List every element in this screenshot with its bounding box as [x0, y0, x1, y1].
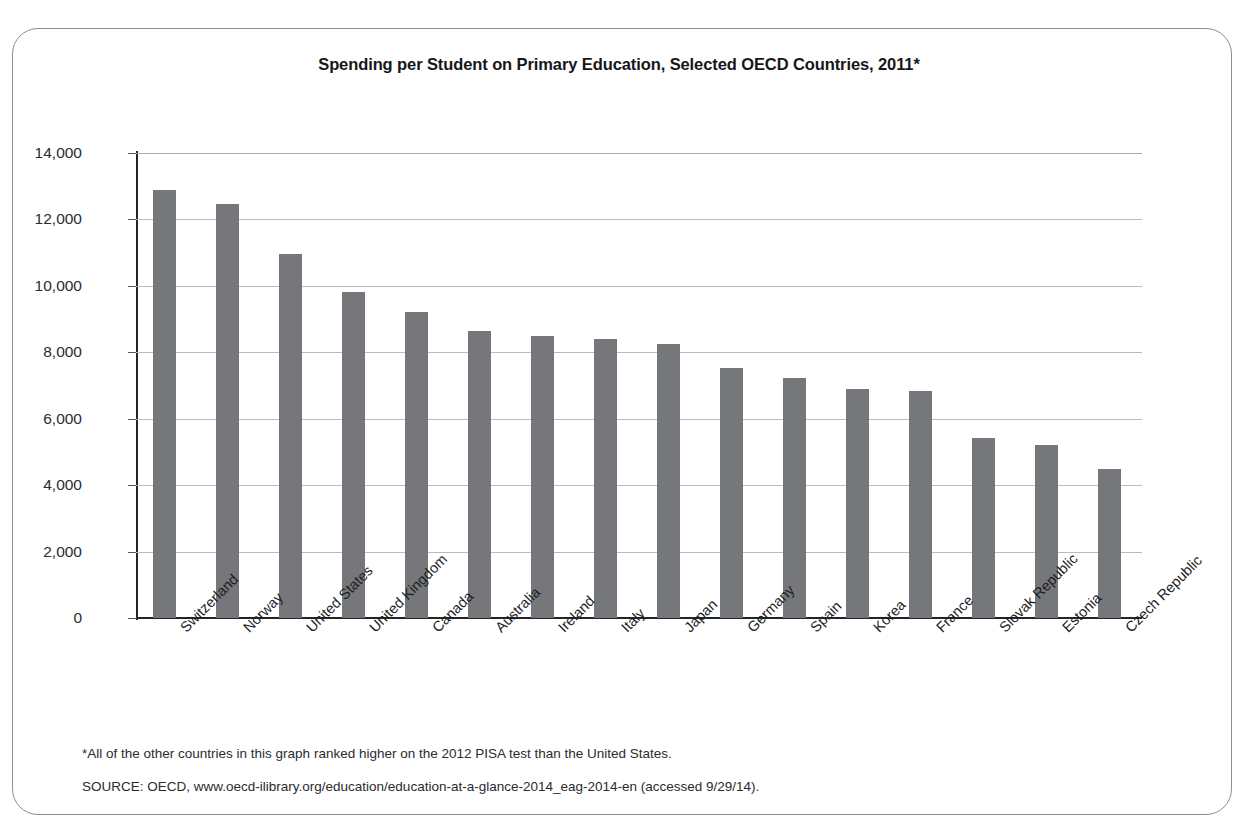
plot-area [136, 153, 1142, 618]
bar-ireland [531, 336, 554, 618]
bar-czech-republic [1098, 469, 1121, 618]
bar-slovak-republic [972, 438, 995, 618]
y-axis-tick-label: 6,000 [0, 410, 82, 428]
bar-korea [846, 389, 869, 618]
gridline [136, 219, 1142, 220]
y-axis-tick-label: 12,000 [0, 210, 82, 228]
bar-united-states [279, 254, 302, 618]
bar-japan [657, 344, 680, 618]
bar-france [909, 391, 932, 618]
y-axis-tick-label: 14,000 [0, 144, 82, 162]
bar-germany [720, 368, 743, 618]
bar-australia [468, 331, 491, 618]
bar-switzerland [153, 190, 176, 618]
chart-title: Spending per Student on Primary Educatio… [0, 55, 1238, 74]
gridline [136, 153, 1142, 154]
y-axis-tick-mark [128, 618, 137, 619]
y-axis-tick-label: 0 [0, 609, 82, 627]
y-axis-tick-label: 2,000 [0, 543, 82, 561]
source-text: SOURCE: OECD, www.oecd-ilibrary.org/educ… [82, 779, 759, 794]
y-axis-tick-label: 8,000 [0, 343, 82, 361]
bar-italy [594, 339, 617, 618]
bar-norway [216, 204, 239, 618]
y-axis-tick-label: 10,000 [0, 277, 82, 295]
footnote-text: *All of the other countries in this grap… [82, 746, 672, 761]
y-axis-tick-label: 4,000 [0, 476, 82, 494]
